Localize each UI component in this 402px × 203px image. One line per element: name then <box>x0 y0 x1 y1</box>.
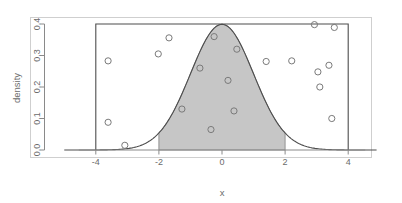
y-tick-label-1: 0.1 <box>32 112 42 125</box>
x-tick-label-1: -2 <box>155 157 163 167</box>
y-tick-label-3: 0.3 <box>32 49 42 62</box>
y-tick-label-0: 0.0 <box>32 144 42 157</box>
sample-point-4 <box>166 35 172 41</box>
y-tick-label-2: 0.2 <box>32 81 42 94</box>
density-plot-figure: -4-20240.00.10.20.30.4xdensity <box>0 0 402 203</box>
shaded-area-under-curve <box>159 24 285 150</box>
sample-point-13 <box>289 58 295 64</box>
plot-canvas: -4-20240.00.10.20.30.4xdensity <box>0 0 402 203</box>
sample-point-16 <box>317 84 323 90</box>
x-axis-title: x <box>220 187 225 198</box>
x-tick-label-3: 2 <box>283 157 288 167</box>
x-tick-label-4: 4 <box>346 157 351 167</box>
sample-point-0 <box>105 58 111 64</box>
sample-point-15 <box>315 69 321 75</box>
y-axis-title: density <box>11 73 22 103</box>
sample-point-12 <box>263 58 269 64</box>
x-tick-label-2: 0 <box>219 157 224 167</box>
sample-point-19 <box>331 24 337 30</box>
sample-point-18 <box>329 115 335 121</box>
sample-point-14 <box>311 22 317 28</box>
sample-point-1 <box>105 119 111 125</box>
sample-point-17 <box>326 62 332 68</box>
x-tick-label-0: -4 <box>92 157 100 167</box>
sample-point-2 <box>122 142 128 148</box>
sample-point-3 <box>155 51 161 57</box>
y-tick-label-4: 0.4 <box>32 18 42 31</box>
